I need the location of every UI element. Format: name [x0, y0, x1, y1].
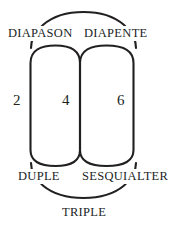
label-triple: TRIPLE	[62, 206, 106, 219]
label-sesquialter: SESQUIALTER	[82, 170, 168, 183]
number-middle: 4	[62, 93, 70, 108]
left-stadium	[31, 46, 81, 167]
label-diapente: DIAPENTE	[84, 27, 148, 40]
label-duple: DUPLE	[18, 170, 60, 183]
number-left: 2	[13, 93, 21, 108]
number-right: 6	[117, 93, 125, 108]
label-diapason: DIAPASON	[8, 27, 72, 40]
right-stadium	[80, 46, 134, 167]
proportion-diagram: DIAPASON DIAPENTE DUPLE SESQUIALTER TRIP…	[0, 0, 187, 229]
